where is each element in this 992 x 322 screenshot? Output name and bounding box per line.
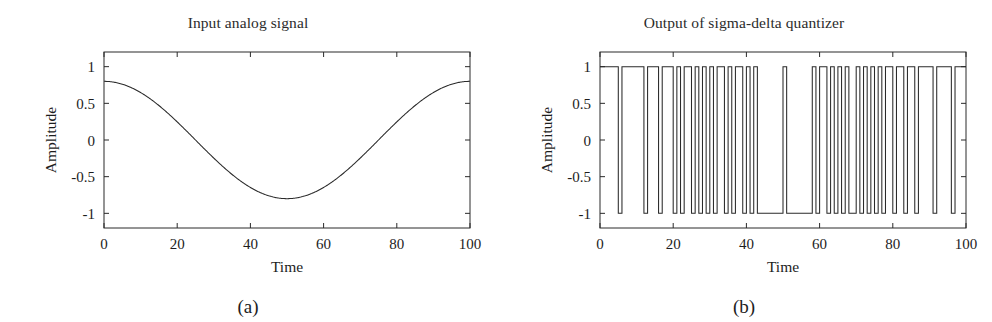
y-tick-label: 1 (88, 59, 96, 75)
y-tick-label: 1 (584, 59, 592, 75)
chart-svg-a: 020406080100-1-0.500.51TimeAmplitude (0, 0, 496, 290)
panel-b: Output of sigma-delta quantizer 02040608… (496, 0, 992, 322)
x-tick-label: 80 (389, 236, 404, 252)
x-tick-label: 20 (170, 236, 185, 252)
x-tick-label: 100 (459, 236, 482, 252)
x-tick-label: 80 (885, 236, 900, 252)
x-axis-label: Time (271, 258, 303, 275)
x-tick-label: 40 (739, 236, 754, 252)
data-trace (600, 67, 966, 214)
panel-a-plot: 020406080100-1-0.500.51TimeAmplitude (0, 0, 496, 290)
y-tick-label: 0 (88, 133, 96, 149)
x-tick-label: 0 (100, 236, 108, 252)
axis-box (104, 52, 470, 228)
x-axis-label: Time (767, 258, 799, 275)
panel-b-plot: 020406080100-1-0.500.51TimeAmplitude (496, 0, 992, 290)
y-tick-label: -1 (579, 206, 592, 222)
y-tick-label: -1 (83, 206, 96, 222)
x-tick-label: 40 (243, 236, 258, 252)
y-tick-label: -0.5 (71, 169, 95, 185)
panel-a: Input analog signal 020406080100-1-0.500… (0, 0, 496, 322)
chart-svg-b: 020406080100-1-0.500.51TimeAmplitude (496, 0, 992, 290)
x-tick-label: 60 (316, 236, 331, 252)
x-tick-label: 20 (666, 236, 681, 252)
data-trace (104, 81, 470, 198)
y-axis-label: Amplitude (42, 107, 59, 173)
y-axis-label: Amplitude (538, 107, 555, 173)
x-tick-label: 100 (955, 236, 978, 252)
y-tick-label: 0.5 (572, 96, 591, 112)
x-tick-label: 0 (596, 236, 604, 252)
y-tick-label: 0 (584, 133, 592, 149)
y-tick-label: -0.5 (567, 169, 591, 185)
figure-container: Input analog signal 020406080100-1-0.500… (0, 0, 992, 322)
panel-b-sublabel: (b) (496, 296, 992, 318)
panel-a-sublabel: (a) (0, 296, 496, 318)
y-tick-label: 0.5 (76, 96, 95, 112)
x-tick-label: 60 (812, 236, 827, 252)
